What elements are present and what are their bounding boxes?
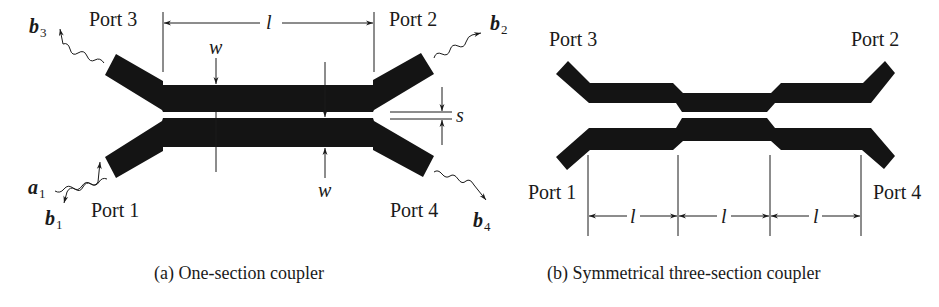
wave-b2-label: b2 (490, 13, 508, 36)
fig-a-port4-label: Port 4 (390, 200, 438, 220)
caption-b: (b) Symmetrical three-section coupler (547, 264, 820, 282)
dim-s-label: s (456, 105, 464, 125)
dim-section2-label: l (721, 206, 727, 226)
coupler-diagram (0, 0, 939, 307)
fig-b-port2-label: Port 2 (851, 29, 899, 49)
figure-a-one-section-coupler (55, 12, 486, 203)
wave-b4-label: b4 (473, 210, 491, 233)
wave-b3-label: b3 (29, 16, 47, 39)
wave-b2-arrow (434, 33, 481, 58)
wave-b4-arrow (434, 171, 486, 200)
wave-b3-arrow (60, 29, 104, 63)
dim-w-bottom-label: w (318, 180, 331, 200)
fig-a-port2-label: Port 2 (389, 9, 437, 29)
dim-section3-label: l (813, 206, 819, 226)
top-coupled-line (105, 53, 434, 112)
fig-b-port4-label: Port 4 (873, 182, 921, 202)
fig-b-port1-label: Port 1 (528, 182, 576, 202)
dim-l-label: l (266, 12, 272, 32)
dim-w-top-label: w (209, 37, 222, 57)
wave-a1-label: a1 (28, 177, 46, 200)
top-three-section-line (556, 61, 895, 112)
wave-b1-label: b1 (45, 208, 63, 231)
fig-a-port3-label: Port 3 (89, 9, 137, 29)
dim-section1-label: l (630, 206, 636, 226)
bottom-three-section-line (556, 118, 895, 170)
fig-b-port3-label: Port 3 (549, 29, 597, 49)
caption-a: (a) One-section coupler (154, 264, 324, 282)
fig-a-port1-label: Port 1 (91, 200, 139, 220)
bottom-coupled-line (105, 118, 434, 178)
wave-a1-arrow (55, 162, 100, 192)
